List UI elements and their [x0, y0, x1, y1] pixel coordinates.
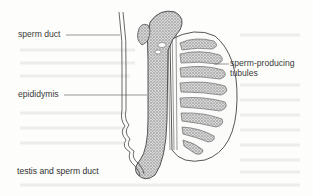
label-sperm-duct: sperm duct [18, 29, 61, 39]
label-tubules-line1: sperm-producing [230, 58, 294, 68]
label-tubules-line2: tubules [230, 68, 258, 78]
testis-outline [170, 32, 237, 161]
figure-caption: testis and sperm duct [17, 166, 99, 176]
label-epididymis: epididymis [18, 89, 59, 99]
